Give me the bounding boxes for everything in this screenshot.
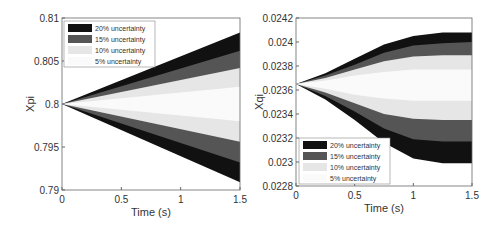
legend-swatch xyxy=(68,35,92,43)
legend-swatch xyxy=(303,163,327,171)
y-tick-label: 0.024 xyxy=(268,37,293,48)
legend-swatch xyxy=(303,174,327,182)
legend-entry: 20% uncertainty xyxy=(95,25,146,33)
legend-entry: 20% uncertainty xyxy=(330,142,381,150)
x-tick-label: 0 xyxy=(293,190,299,201)
chart-2: 00.511.50.02280.0230.02320.02340.02360.0… xyxy=(253,13,479,215)
legend: 20% uncertainty15% uncertainty10% uncert… xyxy=(64,21,155,67)
legend-entry: 10% uncertainty xyxy=(330,164,381,172)
y-tick-label: 0.0234 xyxy=(262,109,293,120)
y-tick-label: 0.0228 xyxy=(262,181,293,192)
y-tick-label: 0.81 xyxy=(40,13,60,24)
y-axis-label: Xpi xyxy=(24,96,36,112)
legend-swatch xyxy=(68,24,92,32)
y-tick-label: 0.79 xyxy=(40,185,60,196)
y-tick-label: 0.0242 xyxy=(262,13,293,24)
x-axis-label: Time (s) xyxy=(364,202,404,214)
chart-1: 00.511.50.790.7950.80.8050.81Time (s)Xpi… xyxy=(24,13,247,219)
x-tick-label: 1 xyxy=(178,194,184,205)
y-tick-label: 0.805 xyxy=(34,56,59,67)
x-tick-label: 1.5 xyxy=(465,190,479,201)
legend-entry: 10% uncertainty xyxy=(95,47,146,55)
legend-entry: 5% uncertainty xyxy=(330,175,377,183)
y-tick-label: 0.0236 xyxy=(262,85,293,96)
y-tick-label: 0.795 xyxy=(34,142,59,153)
y-tick-label: 0.0238 xyxy=(262,61,293,72)
y-tick-label: 0.023 xyxy=(268,157,293,168)
legend: 20% uncertainty15% uncertainty10% uncert… xyxy=(299,138,390,184)
legend-swatch xyxy=(68,57,92,65)
legend-entry: 5% uncertainty xyxy=(95,58,142,66)
legend-swatch xyxy=(303,141,327,149)
x-tick-label: 0.5 xyxy=(114,194,128,205)
x-tick-label: 0 xyxy=(59,194,65,205)
legend-entry: 15% uncertainty xyxy=(330,153,381,161)
legend-entry: 15% uncertainty xyxy=(95,36,146,44)
x-tick-label: 1.5 xyxy=(233,194,247,205)
y-tick-label: 0.8 xyxy=(45,99,59,110)
figure: 00.511.50.790.7950.80.8050.81Time (s)Xpi… xyxy=(0,0,501,228)
legend-swatch xyxy=(303,152,327,160)
y-tick-label: 0.0232 xyxy=(262,133,293,144)
x-axis-label: Time (s) xyxy=(131,206,171,218)
legend-swatch xyxy=(68,46,92,54)
y-axis-label: Xqi xyxy=(253,94,265,110)
x-tick-label: 1 xyxy=(411,190,417,201)
x-tick-label: 0.5 xyxy=(348,190,362,201)
